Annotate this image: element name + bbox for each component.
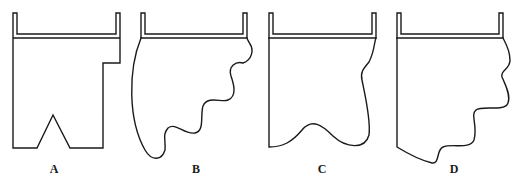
panel-a-shape: [13, 13, 120, 148]
panel-b-shape: [132, 13, 252, 158]
panel-d-label: D: [444, 162, 464, 177]
panel-d-shape: [397, 13, 510, 163]
panel-c-shape: [269, 13, 376, 147]
panel-a-label: A: [44, 162, 64, 177]
panel-b-label: B: [186, 162, 206, 177]
figure-canvas: [0, 0, 521, 187]
panel-c-label: C: [312, 162, 332, 177]
